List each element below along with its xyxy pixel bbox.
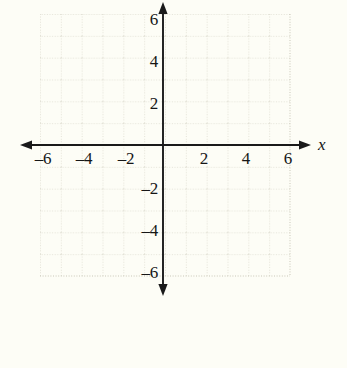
y-tick-label-6: 6 <box>150 11 158 28</box>
x-axis-label: x <box>318 135 326 155</box>
x-tick-label--4: –4 <box>76 150 93 167</box>
x-tick-label-4: 4 <box>242 150 250 167</box>
x-tick-label-2: 2 <box>200 150 208 167</box>
y-tick-label-2: 2 <box>150 95 158 112</box>
x-tick-label--2: –2 <box>118 150 135 167</box>
y-tick-label--2: –2 <box>141 180 158 197</box>
x-tick-label-6: 6 <box>284 150 292 167</box>
coordinate-plane-figure: –6 –4 –2 2 4 6 6 4 2 –2 –4 –6 x <box>0 0 347 368</box>
coordinate-grid-svg <box>0 0 347 368</box>
y-tick-label--6: –6 <box>141 264 158 281</box>
y-tick-label--4: –4 <box>141 222 158 239</box>
x-tick-label--6: –6 <box>35 150 52 167</box>
y-tick-label-4: 4 <box>150 53 158 70</box>
